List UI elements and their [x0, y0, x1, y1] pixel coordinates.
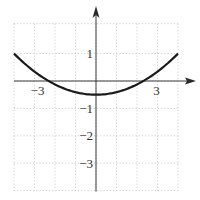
- y-tick-label: −3: [79, 156, 93, 171]
- x-tick-label: −3: [31, 83, 45, 98]
- axes: [14, 6, 196, 192]
- y-tick-label: −2: [79, 128, 93, 143]
- y-tick-label: −1: [79, 101, 93, 116]
- chart: −3 3 1 −1 −2 −3: [0, 0, 200, 200]
- x-tick-label: 3: [153, 83, 160, 98]
- y-tick-label: 1: [87, 46, 94, 61]
